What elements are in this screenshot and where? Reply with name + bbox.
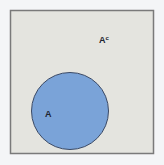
venn-diagram: Ac A xyxy=(0,0,164,165)
set-a-circle xyxy=(32,73,109,150)
set-a-label: A xyxy=(45,109,52,119)
